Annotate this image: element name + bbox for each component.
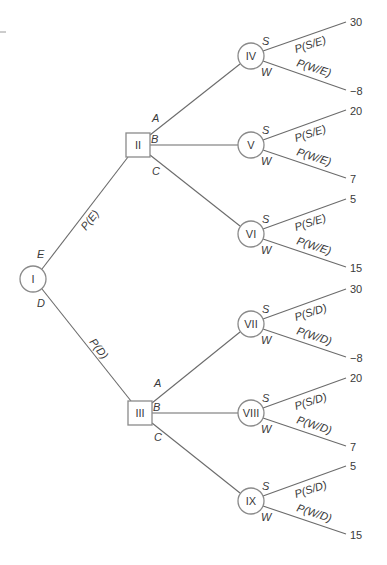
edge-I-II xyxy=(42,157,128,269)
edge-I-III xyxy=(42,289,131,401)
outcome-label-W-V: W xyxy=(261,155,273,167)
outcome-label-W-VII: W xyxy=(261,334,273,346)
decision-label-C-III: C xyxy=(154,431,162,443)
outcome-label-S-VI: S xyxy=(262,213,270,225)
payoff-IV-W: −8 xyxy=(350,85,363,97)
decision-label-C-II: C xyxy=(152,165,160,177)
decision-node-III: III xyxy=(128,401,152,425)
outcome-label-W-IX: W xyxy=(261,511,273,523)
decision-tree: I II III IV V VI VII VIII IX E D P(E) P(… xyxy=(0,0,387,565)
svg-text:IX: IX xyxy=(246,495,257,507)
payoff-V-W: 7 xyxy=(350,173,356,185)
payoff-VII-S: 30 xyxy=(350,283,362,295)
prob-S-IV: P(S/E) xyxy=(293,33,328,55)
event-label-E: E xyxy=(37,248,45,260)
payoff-VII-W: −8 xyxy=(350,352,363,364)
edge-II-VI xyxy=(150,155,240,226)
chance-node-I: I xyxy=(20,266,46,292)
outcome-label-W-IV: W xyxy=(261,66,273,78)
prob-S-VI: P(S/E) xyxy=(293,211,328,233)
decision-label-A-II: A xyxy=(151,112,159,124)
decision-label-B-III: B xyxy=(153,401,160,413)
svg-text:I: I xyxy=(31,273,34,285)
event-label-D: D xyxy=(37,297,45,309)
edge-II-IV xyxy=(150,64,240,135)
prob-S-VIII: P(S/D) xyxy=(293,390,328,412)
outcome-label-S-IX: S xyxy=(262,480,270,492)
outcome-label-S-V: S xyxy=(262,124,270,136)
payoff-VIII-S: 20 xyxy=(350,372,362,384)
prob-W-VII: P(W/D) xyxy=(295,324,333,347)
outcome-label-W-VI: W xyxy=(261,244,273,256)
decision-node-II: II xyxy=(126,133,150,157)
prob-S-V: P(S/E) xyxy=(293,122,328,144)
edge-III-IX xyxy=(152,423,240,493)
prob-W-IV: P(W/E) xyxy=(295,56,333,78)
svg-text:VI: VI xyxy=(246,228,256,240)
prob-label-E: P(E) xyxy=(78,207,101,232)
payoff-VI-W: 15 xyxy=(350,262,362,274)
decision-label-A-III: A xyxy=(153,377,161,389)
outcome-label-W-VIII: W xyxy=(261,423,273,435)
prob-S-IX: P(S/D) xyxy=(293,478,328,500)
payoff-V-S: 20 xyxy=(350,105,362,117)
payoff-IX-W: 15 xyxy=(350,529,362,541)
svg-text:II: II xyxy=(135,139,141,151)
payoff-IV-S: 30 xyxy=(350,16,362,28)
payoff-VI-S: 5 xyxy=(350,193,356,205)
svg-text:VII: VII xyxy=(244,318,257,330)
svg-text:VIII: VIII xyxy=(243,407,260,419)
edge-III-VII xyxy=(152,332,240,403)
outcome-label-S-IV: S xyxy=(262,35,270,47)
svg-text:IV: IV xyxy=(246,50,257,62)
decision-label-B-II: B xyxy=(151,133,158,145)
prob-W-VI: P(W/E) xyxy=(295,234,333,256)
payoff-VIII-W: 7 xyxy=(350,441,356,453)
payoff-IX-S: 5 xyxy=(350,460,356,472)
svg-text:III: III xyxy=(135,407,144,419)
prob-W-VIII: P(W/D) xyxy=(295,413,333,436)
prob-W-V: P(W/E) xyxy=(295,145,333,167)
outcome-label-S-VII: S xyxy=(262,303,270,315)
svg-text:V: V xyxy=(247,139,255,151)
prob-label-D: P(D) xyxy=(87,336,111,361)
prob-W-IX: P(W/D) xyxy=(295,501,333,524)
outcome-label-S-VIII: S xyxy=(262,392,270,404)
prob-S-VII: P(S/D) xyxy=(293,301,328,323)
